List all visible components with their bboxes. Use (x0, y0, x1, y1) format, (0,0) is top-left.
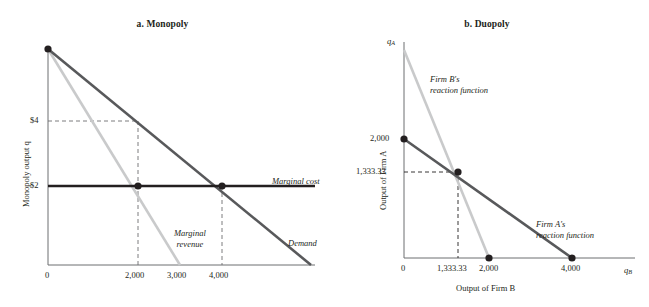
monopoly-xtick-4000: 4,000 (209, 271, 228, 280)
firm-a-reaction-function-label-line1: Firm A's (536, 219, 594, 230)
marginal-revenue-label-line2: revenue (174, 239, 206, 250)
firm-a-reaction-function-label: Firm A's reaction function (536, 219, 594, 240)
point-competitive-output (218, 182, 225, 189)
monopoly-ytick-2: $2 (30, 181, 39, 190)
panel-monopoly: a. Monopoly Monopoly output q $4 $2 0 2,… (0, 0, 325, 307)
monopoly-y-axis-title: Monopoly output q (22, 141, 31, 207)
duopoly-x-axis-title: Output of Firm B (456, 284, 515, 293)
duopoly-plot (325, 0, 649, 307)
point-choke-price (44, 45, 51, 52)
point-monopoly-output (134, 182, 141, 189)
duopoly-xtick-0: 0 (401, 264, 405, 273)
panel-duopoly: b. Duopoly qA qB Output of Firm A Output… (325, 0, 649, 307)
duopoly-xtick-4000: 4,000 (561, 264, 580, 273)
firm-b-reaction-function-label-line1: Firm B's (430, 74, 488, 85)
duopoly-y-axis-title: Output of Firm A (379, 151, 388, 210)
duopoly-x-axis-variable: qB (624, 266, 632, 275)
marginal-revenue-line (48, 49, 180, 265)
duopoly-y-axis-title-text: Output of Firm A (378, 151, 388, 210)
demand-label: Demand (288, 238, 317, 249)
duopoly-ytick-133333: 1,333.33 (356, 167, 386, 176)
firm-b-reaction-function-label: Firm B's reaction function (430, 74, 488, 95)
duopoly-xtick-2000: 2,000 (479, 264, 498, 273)
monopoly-xtick-3000: 3,000 (167, 271, 186, 280)
point-firm-a-intercept (400, 135, 407, 142)
point-cournot-equilibrium (454, 168, 461, 175)
monopoly-ytick-4: $4 (30, 116, 39, 125)
firm-a-reaction-function-label-line2: reaction function (536, 230, 594, 241)
duopoly-y-axis-variable-subscript: A (391, 39, 395, 46)
duopoly-ytick-2000: 2,000 (370, 134, 389, 143)
marginal-cost-label: Marginal cost (272, 176, 320, 187)
monopoly-xtick-2000: 2,000 (125, 271, 144, 280)
monopoly-plot (0, 0, 325, 307)
point-firm-a-x-intercept (568, 254, 575, 261)
duopoly-y-axis-variable: qA (387, 37, 395, 46)
marginal-revenue-label: Marginal revenue (174, 228, 206, 249)
firm-b-reaction-function-label-line2: reaction function (430, 85, 488, 96)
monopoly-xtick-0: 0 (45, 271, 49, 280)
marginal-revenue-label-line1: Marginal (174, 228, 206, 239)
monopoly-y-axis-title-text: Monopoly output q (21, 141, 31, 207)
duopoly-x-axis-variable-subscript: B (628, 268, 632, 275)
duopoly-xtick-133333: 1,333.33 (437, 264, 467, 273)
point-firm-b-intercept (485, 254, 492, 261)
